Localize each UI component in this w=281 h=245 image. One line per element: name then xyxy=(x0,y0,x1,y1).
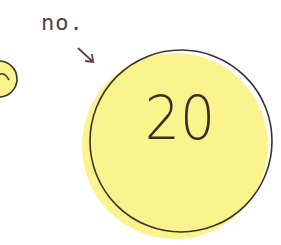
number-label: no. xyxy=(41,12,84,34)
badge-number: 20 xyxy=(97,88,263,148)
arrow-down-right-icon xyxy=(78,48,93,62)
partial-smiley-icon xyxy=(0,60,18,98)
